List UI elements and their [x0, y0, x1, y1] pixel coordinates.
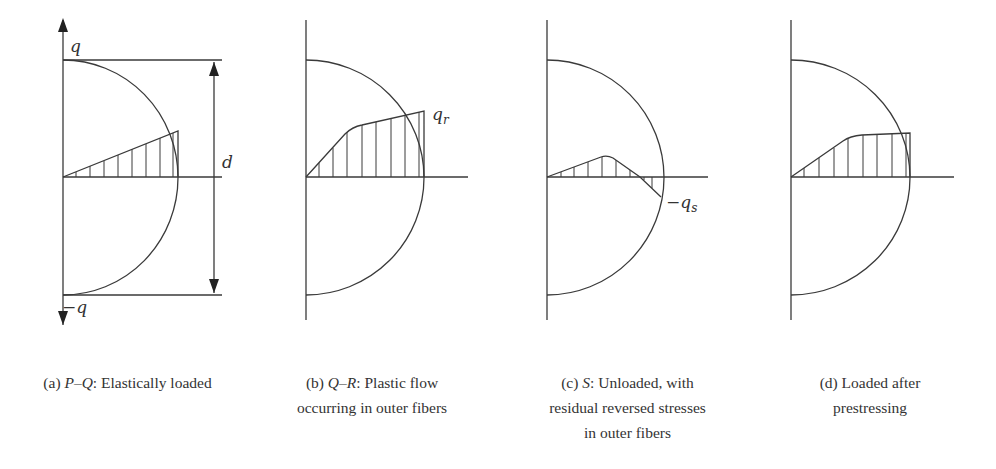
caption-b-prefix: (b)	[306, 374, 328, 391]
arrow-down-icon	[209, 279, 219, 293]
arrow-up-icon	[58, 18, 68, 32]
caption-a: (a) P–Q: Elastically loaded	[20, 370, 235, 395]
caption-b-rest: : Plastic flow	[356, 374, 438, 391]
hatching	[804, 133, 906, 177]
stress-profile-plastic	[306, 111, 424, 177]
caption-d-line2: prestressing	[833, 399, 907, 416]
panel-c-diagram: −qs	[547, 20, 708, 320]
label-q: q	[70, 36, 81, 56]
caption-c-italic: S	[582, 374, 590, 391]
caption-d-prefix: (d) Loaded after	[820, 374, 921, 391]
caption-b: (b) Q–R: Plastic flow occurring in outer…	[262, 370, 482, 420]
caption-a-prefix: (a)	[43, 374, 64, 391]
caption-b-line2: occurring in outer fibers	[297, 399, 447, 416]
label-d: d	[222, 152, 233, 172]
caption-b-italic: Q–R	[328, 374, 356, 391]
caption-c-rest: : Unloaded, with	[590, 374, 694, 391]
label-neg-q: −q	[62, 297, 87, 317]
caption-a-italic: P–Q	[64, 374, 92, 391]
label-neg-q-s: −qs	[666, 192, 697, 215]
arrow-up-icon	[209, 62, 219, 76]
panel-b-diagram: qr	[306, 20, 468, 320]
caption-c-prefix: (c)	[561, 374, 582, 391]
hatching	[319, 112, 419, 177]
stress-profile-linear	[63, 131, 178, 177]
caption-c-line2: residual reversed stresses	[549, 399, 706, 416]
panel-d-diagram	[791, 20, 954, 320]
hatching	[76, 133, 173, 177]
caption-d: (d) Loaded after prestressing	[795, 370, 945, 420]
panel-a-diagram: q −q d	[58, 18, 233, 325]
label-q-r: qr	[432, 104, 450, 127]
caption-c-line3: in outer fibers	[584, 424, 671, 441]
hatching	[561, 157, 652, 188]
caption-c: (c) S: Unloaded, with residual reversed …	[505, 370, 750, 445]
caption-a-rest: : Elastically loaded	[93, 374, 212, 391]
